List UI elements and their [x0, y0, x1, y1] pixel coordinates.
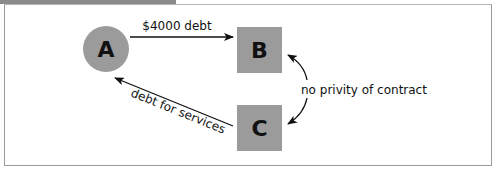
node-a-label: A	[97, 37, 114, 62]
curved-arrow-to-c	[288, 98, 307, 124]
node-c-label: C	[251, 116, 267, 141]
node-b-label: B	[251, 38, 268, 63]
no-privity-label: no privity of contract	[301, 83, 427, 97]
node-a: A	[83, 26, 129, 72]
edge-a-to-b-label: $4000 debt	[142, 19, 212, 33]
node-c: C	[237, 105, 282, 151]
edge-a-to-b: $4000 debt	[130, 19, 233, 37]
curved-arrow-to-b	[288, 55, 307, 80]
edge-c-to-a: debt for services	[115, 78, 233, 136]
node-b: B	[237, 27, 282, 73]
edge-c-to-a-label: debt for services	[129, 86, 228, 137]
edge-b-c-no-privity: no privity of contract	[288, 55, 427, 124]
contract-diagram: A B C $4000 debt debt for services no pr…	[0, 0, 496, 172]
